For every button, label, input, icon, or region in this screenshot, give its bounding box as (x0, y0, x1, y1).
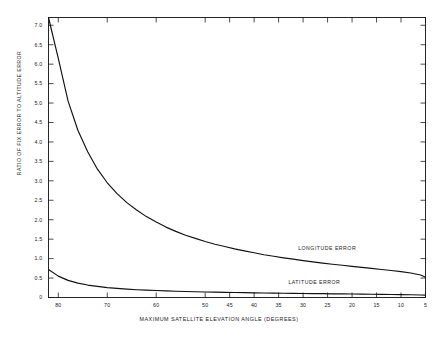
chart-figure: RATIO OF FIX ERROR TO ALTITUDE ERROR MAX… (0, 0, 438, 339)
plot-frame (49, 18, 426, 298)
curve-latitude-error (49, 270, 426, 296)
axis-ticks (49, 18, 426, 298)
curve-longitude-error (49, 18, 426, 278)
data-curves (49, 18, 426, 296)
plot-canvas (0, 0, 438, 339)
